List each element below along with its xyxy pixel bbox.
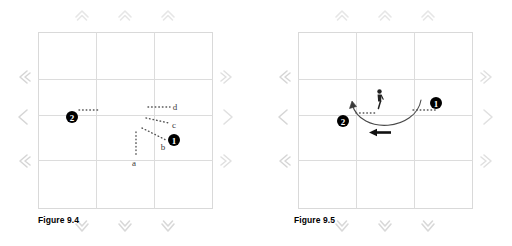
chevron-left-icon xyxy=(19,110,27,124)
chevron-right-icon xyxy=(221,73,226,81)
figure-caption-9-4: Figure 9.4 xyxy=(38,216,79,225)
court-boundary xyxy=(299,33,473,209)
figure-panel-9-5: 2 1 Figure 9.5 xyxy=(256,0,512,246)
chevron-down-icon xyxy=(338,221,347,226)
chevron-down-icon xyxy=(381,221,390,226)
position-marker-1: 1 xyxy=(430,97,442,109)
chevron-up-icon xyxy=(338,16,347,21)
chevron-left-icon xyxy=(285,73,290,81)
figure-panel-9-4: 2 1 a b c d Figure 9.4 xyxy=(0,0,256,246)
chevron-down-icon xyxy=(121,221,130,226)
chevron-up-icon xyxy=(164,16,173,21)
chevron-left-icon xyxy=(25,157,30,165)
chevron-right-icon xyxy=(221,157,226,165)
position-marker-2: 2 xyxy=(66,111,78,123)
court-boundary xyxy=(39,33,213,209)
position-marker-2: 2 xyxy=(337,115,349,127)
court-diagram-9-4: 2 1 a b c d xyxy=(0,0,256,246)
chevron-left-icon xyxy=(285,157,290,165)
chevron-right-icon xyxy=(481,157,486,165)
court-diagram-9-5: 2 1 xyxy=(256,0,512,246)
chevron-left-icon xyxy=(25,73,30,81)
position-marker-2-label: 2 xyxy=(341,117,346,127)
position-marker-1-label: 1 xyxy=(172,136,177,146)
chevron-up-icon xyxy=(78,16,87,21)
chevron-right-icon xyxy=(484,110,492,124)
position-marker-1-label: 1 xyxy=(434,99,439,109)
path-label-a: a xyxy=(132,158,136,168)
path-label-d: d xyxy=(173,102,178,112)
chevron-down-icon xyxy=(164,221,173,226)
figures-container: 2 1 a b c d Figure 9.4 xyxy=(0,0,512,246)
path-label-b: b xyxy=(161,142,166,152)
chevron-down-icon xyxy=(424,221,433,226)
chevron-up-icon xyxy=(381,16,390,21)
chevron-left-icon xyxy=(279,110,287,124)
chevron-up-icon xyxy=(424,16,433,21)
chevron-up-icon xyxy=(121,16,130,21)
chevron-right-icon xyxy=(224,110,232,124)
path-label-c: c xyxy=(172,120,176,130)
position-marker-2-label: 2 xyxy=(70,113,75,123)
position-marker-1: 1 xyxy=(168,134,180,146)
chevron-right-icon xyxy=(481,73,486,81)
figure-caption-9-5: Figure 9.5 xyxy=(294,216,335,225)
